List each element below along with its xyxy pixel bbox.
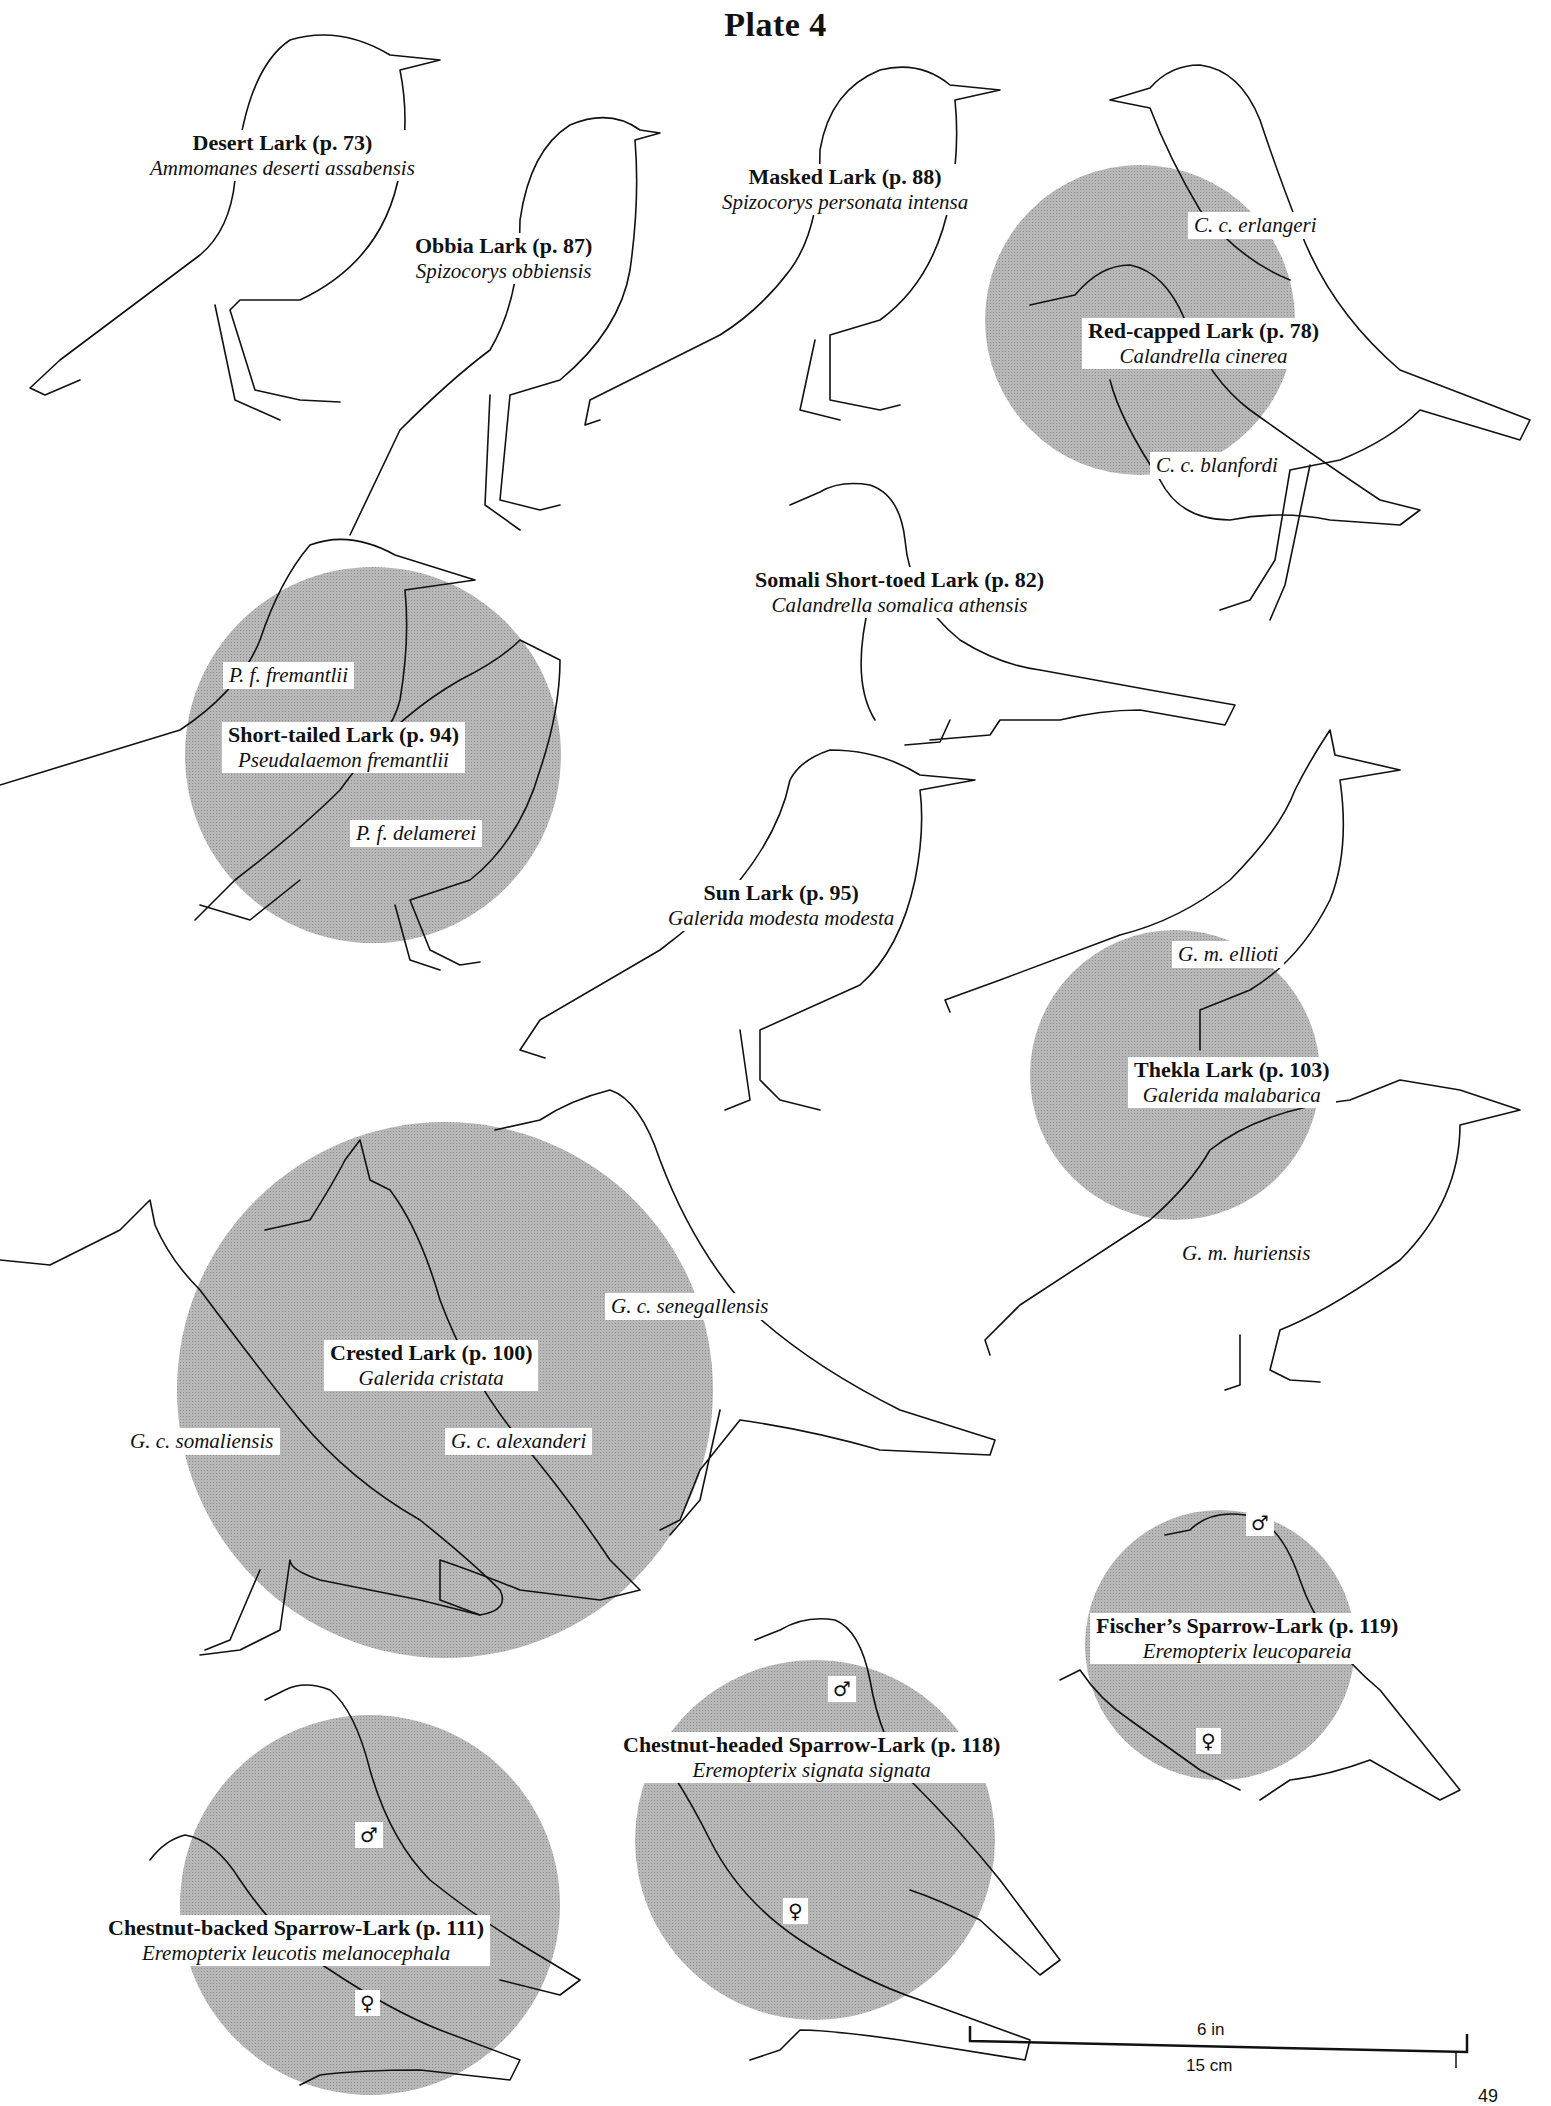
subspecies-label: G. m. ellioti: [1172, 941, 1284, 968]
scientific-name: Calandrella somalica athensis: [755, 593, 1044, 618]
scale-label-centimeters: 15 cm: [1186, 2056, 1232, 2076]
species-label-chestnut-backed-sparrow-lark: Chestnut-backed Sparrow-Lark (p. 111) Er…: [102, 1915, 490, 1966]
species-label-obbia-lark: Obbia Lark (p. 87) Spizocorys obbiensis: [415, 233, 592, 284]
species-label-somali-short-toed-lark: Somali Short-toed Lark (p. 82) Calandrel…: [755, 567, 1044, 618]
scientific-name: Spizocorys personata intensa: [722, 190, 968, 215]
scientific-name: Galerida cristata: [330, 1366, 532, 1391]
species-label-thekla-lark: Thekla Lark (p. 103) Galerida malabarica: [1128, 1057, 1336, 1108]
scientific-name: Eremopterix leucotis melanocephala: [108, 1941, 484, 1966]
subspecies-label: P. f. delamerei: [350, 820, 482, 847]
male-symbol: ♂: [1246, 1510, 1274, 1536]
female-symbol: ♀: [355, 1990, 380, 2016]
bird-masked-lark: [585, 67, 1000, 425]
female-symbol: ♀: [783, 1898, 808, 1924]
common-name: Somali Short-toed Lark (p. 82): [755, 567, 1044, 593]
subspecies-label: G. c. alexanderi: [445, 1428, 592, 1455]
scale-label-inches: 6 in: [1197, 2020, 1224, 2040]
scientific-name: Eremopterix leucopareia: [1096, 1639, 1398, 1664]
common-name: Short-tailed Lark (p. 94): [228, 722, 459, 748]
scientific-name: Spizocorys obbiensis: [415, 259, 592, 284]
common-name: Chestnut-headed Sparrow-Lark (p. 118): [623, 1732, 1000, 1758]
male-symbol: ♂: [355, 1822, 383, 1848]
common-name: Desert Lark (p. 73): [150, 130, 415, 156]
subspecies-label: C. c. erlangeri: [1188, 212, 1322, 239]
subspecies-label: G. m. huriensis: [1176, 1240, 1316, 1267]
scientific-name: Calandrella cinerea: [1088, 344, 1319, 369]
subspecies-label: C. c. blanfordi: [1150, 452, 1284, 479]
subspecies-label: G. c. senegallensis: [605, 1293, 774, 1320]
scientific-name: Galerida modesta modesta: [668, 906, 894, 931]
species-label-chestnut-headed-sparrow-lark: Chestnut-headed Sparrow-Lark (p. 118) Er…: [617, 1732, 1006, 1783]
common-name: Fischer’s Sparrow-Lark (p. 119): [1096, 1613, 1398, 1639]
species-label-sun-lark: Sun Lark (p. 95) Galerida modesta modest…: [668, 880, 894, 931]
common-name: Masked Lark (p. 88): [722, 164, 968, 190]
common-name: Obbia Lark (p. 87): [415, 233, 592, 259]
page-number: 49: [1478, 2086, 1498, 2106]
species-label-fischers-sparrow-lark: Fischer’s Sparrow-Lark (p. 119) Eremopte…: [1090, 1613, 1404, 1664]
species-label-masked-lark: Masked Lark (p. 88) Spizocorys personata…: [722, 164, 968, 215]
subspecies-label: G. c. somaliensis: [124, 1428, 280, 1455]
subspecies-label: P. f. fremantlii: [223, 662, 354, 689]
scientific-name: Ammomanes deserti assabensis: [150, 156, 415, 181]
species-label-red-capped-lark: Red-capped Lark (p. 78) Calandrella cine…: [1082, 318, 1325, 369]
male-symbol: ♂: [828, 1676, 856, 1702]
scientific-name: Eremopterix signata signata: [623, 1758, 1000, 1783]
scientific-name: Pseudalaemon fremantlii: [228, 748, 459, 773]
species-label-crested-lark: Crested Lark (p. 100) Galerida cristata: [324, 1340, 538, 1391]
common-name: Red-capped Lark (p. 78): [1088, 318, 1319, 344]
shade-disc-chestnut-headed: [635, 1660, 995, 2020]
common-name: Thekla Lark (p. 103): [1134, 1057, 1330, 1083]
common-name: Chestnut-backed Sparrow-Lark (p. 111): [108, 1915, 484, 1941]
common-name: Sun Lark (p. 95): [668, 880, 894, 906]
scientific-name: Galerida malabarica: [1134, 1083, 1330, 1108]
species-label-desert-lark: Desert Lark (p. 73) Ammomanes deserti as…: [150, 130, 415, 181]
female-symbol: ♀: [1196, 1728, 1221, 1754]
common-name: Crested Lark (p. 100): [330, 1340, 532, 1366]
species-label-short-tailed-lark: Short-tailed Lark (p. 94) Pseudalaemon f…: [222, 722, 465, 773]
bird-desert-lark: [30, 35, 440, 420]
